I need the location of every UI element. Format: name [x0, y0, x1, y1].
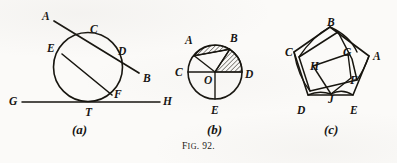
label-a-point-c: C: [90, 23, 98, 35]
label-b-point-o: O: [204, 74, 212, 86]
label-a-point-d: D: [117, 45, 127, 57]
chord-ef: [62, 54, 112, 95]
label-b-point-e: E: [210, 104, 219, 116]
figure-c: B C G A H F J D E (c): [272, 0, 397, 140]
label-b-point-b: B: [229, 32, 238, 44]
figure-caption: FIG. 92.: [0, 141, 397, 151]
label-c-point-f: F: [349, 74, 358, 86]
label-c-point-e: E: [349, 104, 358, 116]
label-b-point-d: D: [244, 68, 254, 80]
sublabel-c: (c): [324, 122, 338, 137]
label-a-point-b: B: [142, 72, 151, 84]
label-a-point-t: T: [85, 106, 93, 118]
sublabel-a: (a): [72, 122, 87, 137]
label-a-point-f: F: [113, 88, 122, 100]
label-b-point-c: C: [175, 66, 183, 78]
circle-a: [54, 33, 123, 102]
hatched-sector-bod: [215, 49, 242, 72]
label-c-point-c: C: [285, 46, 293, 58]
figure-page: A C E D B G F T H (a) A B: [0, 0, 397, 163]
sublabel-b: (b): [207, 122, 222, 137]
label-c-point-b: B: [326, 16, 335, 28]
label-c-point-g: G: [343, 46, 352, 58]
radius-oa: [194, 56, 215, 72]
label-c-point-a: A: [372, 50, 381, 62]
caption-suffix: . 92.: [197, 141, 215, 151]
label-b-point-a: A: [184, 34, 193, 46]
figure-a: A C E D B G F T H (a): [0, 0, 185, 140]
figure-b: A B C O D E (b): [170, 0, 265, 140]
arc-bc: [299, 27, 330, 57]
arc-af: [357, 56, 369, 80]
label-a-point-e: E: [46, 42, 55, 54]
label-a-point-g: G: [9, 95, 18, 107]
caption-smallcaps: IG: [188, 142, 197, 151]
label-c-point-d: D: [296, 104, 306, 116]
label-c-point-h: H: [309, 60, 320, 72]
label-a-point-a: A: [41, 10, 50, 22]
